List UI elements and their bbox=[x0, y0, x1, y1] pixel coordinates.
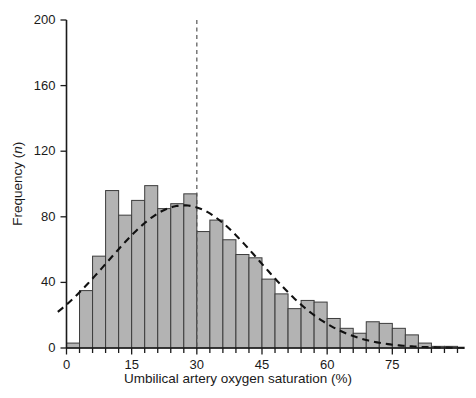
y-axis-title-prefix: ( bbox=[10, 154, 25, 162]
histogram-bar bbox=[93, 256, 106, 348]
y-tick-label: 200 bbox=[0, 13, 56, 26]
x-tick-label: 0 bbox=[42, 358, 92, 371]
y-axis-title: Frequency (n) bbox=[11, 114, 25, 254]
y-axis-title-suffix: ) bbox=[10, 142, 25, 147]
plot-canvas bbox=[0, 0, 476, 398]
x-tick-label: 30 bbox=[172, 358, 222, 371]
histogram-bar bbox=[119, 215, 132, 348]
x-tick-label: 15 bbox=[107, 358, 157, 371]
y-axis-title-symbol: n bbox=[10, 146, 25, 154]
histogram-bar bbox=[184, 194, 197, 348]
histogram-bar bbox=[353, 333, 366, 348]
x-tick-label: 75 bbox=[367, 358, 417, 371]
histogram-bar bbox=[288, 309, 301, 348]
histogram-bar bbox=[236, 255, 249, 348]
histogram-bar bbox=[210, 220, 223, 348]
y-tick-label: 0 bbox=[0, 341, 56, 354]
histogram-bar bbox=[106, 191, 119, 348]
histogram-bar bbox=[275, 294, 288, 348]
x-tick-label: 60 bbox=[302, 358, 352, 371]
histogram-bar bbox=[158, 209, 171, 348]
y-tick-label: 40 bbox=[0, 275, 56, 288]
histogram-bar bbox=[223, 240, 236, 348]
x-tick-label: 45 bbox=[237, 358, 287, 371]
y-tick-label: 160 bbox=[0, 79, 56, 92]
histogram-bar bbox=[314, 302, 327, 348]
x-axis-title: Umbilical artery oxygen saturation (%) bbox=[0, 372, 476, 386]
histogram-bar bbox=[132, 200, 145, 348]
histogram-bar bbox=[197, 232, 210, 348]
y-tick-label: 80 bbox=[0, 210, 56, 223]
histogram-bar bbox=[327, 318, 340, 348]
histogram-bar bbox=[366, 322, 379, 348]
histogram-figure: 04080120160200 01530456075 Umbilical art… bbox=[0, 0, 476, 398]
y-axis-title-text: Frequency bbox=[10, 162, 25, 226]
bars-group bbox=[67, 186, 458, 348]
y-tick-label: 120 bbox=[0, 144, 56, 157]
histogram-bar bbox=[262, 279, 275, 348]
histogram-bar bbox=[249, 258, 262, 348]
histogram-bar bbox=[80, 291, 93, 348]
histogram-bar bbox=[145, 186, 158, 348]
histogram-bar bbox=[171, 204, 184, 348]
